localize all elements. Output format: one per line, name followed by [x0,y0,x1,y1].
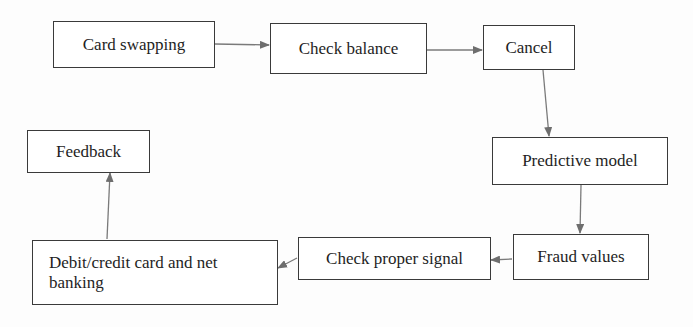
node-label: Fraud values [537,247,624,267]
arrow-cancel-to-predictive [543,70,549,136]
node-feedback: Feedback [27,130,150,173]
node-debit-credit: Debit/credit card and net banking [32,240,278,305]
node-label: Predictive model [522,151,638,171]
arrow-card-to-balance [215,44,269,45]
arrow-signal-to-debit [278,258,297,268]
node-label: Cancel [505,38,552,58]
node-label: Check balance [299,39,399,59]
node-fraud-values: Fraud values [513,234,649,280]
node-predictive-model: Predictive model [492,137,668,185]
arrow-predictive-to-fraud [580,185,581,233]
node-label: Feedback [56,142,121,162]
node-check-balance: Check balance [270,23,427,74]
node-label: Card swapping [83,35,185,55]
node-card-swapping: Card swapping [53,21,215,68]
arrow-debit-to-feedback [107,173,110,239]
node-cancel: Cancel [483,25,575,70]
node-label: Debit/credit card and net banking [49,253,261,293]
node-label: Check proper signal [326,249,463,269]
node-check-proper-signal: Check proper signal [298,237,491,280]
arrow-fraud-to-signal [491,259,512,260]
